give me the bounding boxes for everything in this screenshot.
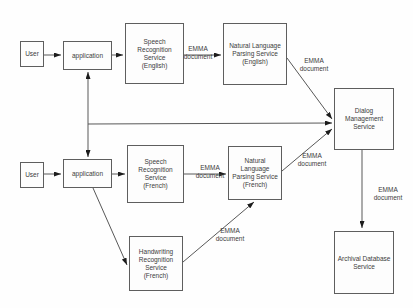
- node-natural-language-parsing-service-french: Natural Language Parsing Service (French…: [228, 146, 282, 200]
- edge-label-emma-document-speech-en-nlp-en: EMMA document: [181, 45, 215, 60]
- edge-label-emma-document-handwriting-nlp-fr: EMMA document: [213, 227, 247, 242]
- node-natural-language-parsing-service-english: Natural Language Parsing Service (Englis…: [223, 23, 287, 85]
- node-user-english: User: [20, 41, 44, 67]
- edge-label-emma-document-speech-fr-nlp-fr: EMMA document: [193, 164, 227, 179]
- edge-label-emma-document-nlp-en-dms: EMMA document: [297, 57, 331, 72]
- node-application-english: application: [63, 41, 112, 70]
- node-handwriting-recognition-service-french: Handwriting Recognition Service (French): [129, 236, 183, 291]
- node-speech-recognition-service-english: Speech Recognition Service (English): [125, 23, 184, 84]
- diagram-canvas: User application Speech Recognition Serv…: [0, 0, 413, 308]
- node-dialog-management-service: Dialog Management Service: [334, 88, 394, 150]
- node-speech-recognition-service-french: Speech Recognition Service (French): [127, 145, 184, 203]
- edge-applications-to-dialog-management: [88, 123, 332, 124]
- node-application-french: application: [63, 159, 112, 188]
- edge-label-emma-document-nlp-fr-dms: EMMA document: [295, 152, 329, 167]
- edge-application-fr-to-handwriting-fr: [93, 188, 127, 265]
- node-user-french: User: [20, 162, 44, 188]
- node-archival-database-service: Archival Database Service: [334, 231, 394, 294]
- edge-label-emma-document-dms-archival: EMMA document: [371, 186, 405, 201]
